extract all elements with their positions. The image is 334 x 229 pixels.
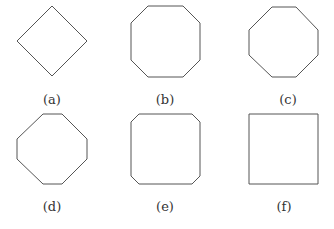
panel-label-e: (e) [156, 199, 174, 214]
panel-label-f: (f) [277, 199, 292, 214]
octagon-d-shape [17, 114, 87, 184]
panel-label-c: (c) [279, 92, 296, 107]
panel-label-b: (b) [156, 92, 174, 107]
panel-label-a: (a) [43, 92, 61, 107]
square-shape [249, 114, 318, 184]
octagon-e-shape [131, 114, 200, 184]
figure-canvas [0, 0, 334, 229]
octagon-b-shape [131, 6, 200, 77]
diamond-shape [17, 6, 87, 76]
regular-octagon-shape [249, 7, 318, 77]
panel-label-d: (d) [43, 199, 61, 214]
